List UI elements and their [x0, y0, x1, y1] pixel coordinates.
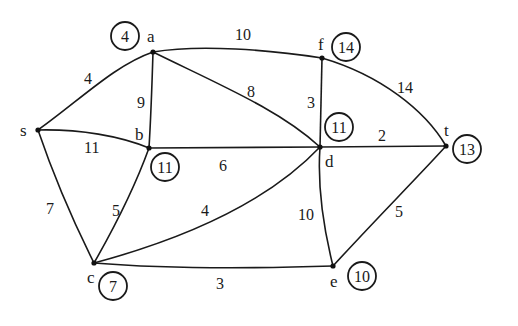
node-label-e: e	[330, 272, 338, 291]
svg-text:10: 10	[354, 268, 370, 285]
weight-s-b: 11	[84, 139, 99, 156]
svg-text:4: 4	[121, 28, 129, 45]
distance-f: 14	[332, 33, 360, 61]
graph-diagram: s a b c d e f t 4 11 7 11 10 14 13 4 11 …	[0, 0, 518, 326]
node-label-b: b	[135, 125, 144, 144]
edge-d-t	[320, 146, 446, 147]
weight-b-c: 5	[112, 202, 120, 219]
distance-b: 11	[151, 153, 179, 181]
weight-a-b: 9	[137, 94, 145, 111]
edge-a-f	[153, 48, 322, 58]
weight-d-t: 2	[378, 127, 386, 144]
distance-t: 13	[453, 135, 481, 163]
edge-a-b	[149, 52, 153, 148]
node-label-f: f	[318, 35, 324, 54]
distance-e: 10	[348, 262, 376, 290]
svg-text:11: 11	[331, 119, 346, 136]
edge-a-d	[153, 52, 320, 147]
distance-a: 4	[111, 22, 139, 50]
edge-f-d	[320, 58, 322, 147]
node-t	[443, 143, 448, 148]
svg-text:13: 13	[459, 141, 475, 158]
distance-d: 11	[325, 113, 353, 141]
edge-s-a	[38, 52, 153, 130]
distance-c: 7	[99, 272, 127, 300]
edge-b-d	[149, 147, 320, 148]
weight-e-t: 5	[395, 203, 403, 220]
edge-e-t	[333, 146, 446, 266]
weight-c-d: 4	[201, 202, 209, 219]
node-label-t: t	[444, 121, 449, 140]
node-label-a: a	[147, 27, 155, 46]
weight-f-d: 3	[307, 94, 315, 111]
node-label-c: c	[87, 268, 95, 287]
svg-text:14: 14	[338, 39, 354, 56]
node-b	[146, 145, 151, 150]
edge-c-e	[94, 263, 333, 268]
node-d	[317, 144, 322, 149]
node-e	[330, 263, 335, 268]
weight-s-a: 4	[84, 70, 92, 87]
weight-a-d: 8	[247, 83, 255, 100]
weight-b-d: 6	[219, 157, 227, 174]
edge-b-c	[94, 148, 149, 263]
svg-text:7: 7	[109, 278, 117, 295]
node-label-s: s	[20, 121, 27, 140]
weight-d-e: 10	[298, 206, 314, 223]
node-c	[91, 260, 96, 265]
node-s	[35, 127, 40, 132]
node-label-d: d	[325, 152, 334, 171]
node-f	[319, 55, 324, 60]
weight-s-c: 7	[46, 200, 54, 217]
weight-a-f: 10	[235, 26, 251, 43]
svg-text:11: 11	[157, 159, 172, 176]
weight-c-e: 3	[216, 275, 224, 292]
weight-f-t: 14	[397, 79, 413, 96]
node-a	[150, 49, 155, 54]
